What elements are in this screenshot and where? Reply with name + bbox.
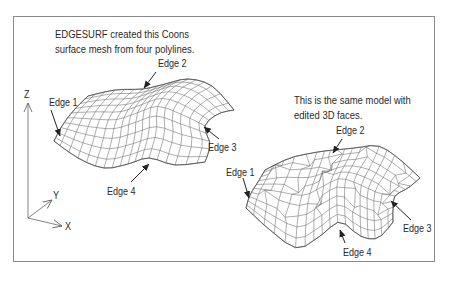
right-caption: This is the same model with edited 3D fa… <box>294 93 411 123</box>
right-edited-mesh <box>246 146 420 248</box>
right-edge4-label: Edge 4 <box>343 246 372 258</box>
left-caption-line2: surface mesh from four polylines. <box>55 42 194 57</box>
y-axis-label: Y <box>53 189 59 201</box>
right-edge2-label: Edge 2 <box>336 124 365 136</box>
x-axis-label: X <box>65 220 71 232</box>
left-caption: EDGESURF created this Coons surface mesh… <box>55 27 194 57</box>
left-edge4-label: Edge 4 <box>107 185 136 197</box>
ucs-axes-icon <box>28 103 62 226</box>
left-edge3-label: Edge 3 <box>208 141 237 153</box>
left-coons-mesh <box>54 79 234 168</box>
z-axis-label: Z <box>24 88 30 100</box>
right-edge1-label: Edge 1 <box>226 166 255 178</box>
left-edge2-label: Edge 2 <box>158 57 187 69</box>
left-callout-arrows <box>51 72 219 182</box>
right-caption-line2: edited 3D faces. <box>294 108 411 123</box>
left-edge1-label: Edge 1 <box>49 96 78 108</box>
right-edge3-label: Edge 3 <box>403 222 432 234</box>
right-caption-line1: This is the same model with <box>294 93 411 108</box>
left-caption-line1: EDGESURF created this Coons <box>55 27 194 42</box>
